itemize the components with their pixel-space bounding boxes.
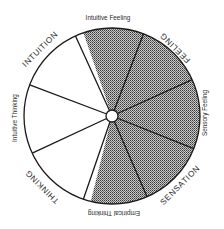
label-sensory-feeling: Sensory Feeling (201, 89, 209, 136)
label-intuitive-thinking: Intuitive Thinking (11, 94, 19, 142)
label-empirical-thinking: Empirical Thinking (88, 209, 141, 217)
center-hub (106, 110, 118, 122)
typology-wheel: Intuitive Feeling FEELING Sensory Feelin… (0, 0, 224, 229)
label-intuitive-feeling: Intuitive Feeling (86, 14, 131, 22)
